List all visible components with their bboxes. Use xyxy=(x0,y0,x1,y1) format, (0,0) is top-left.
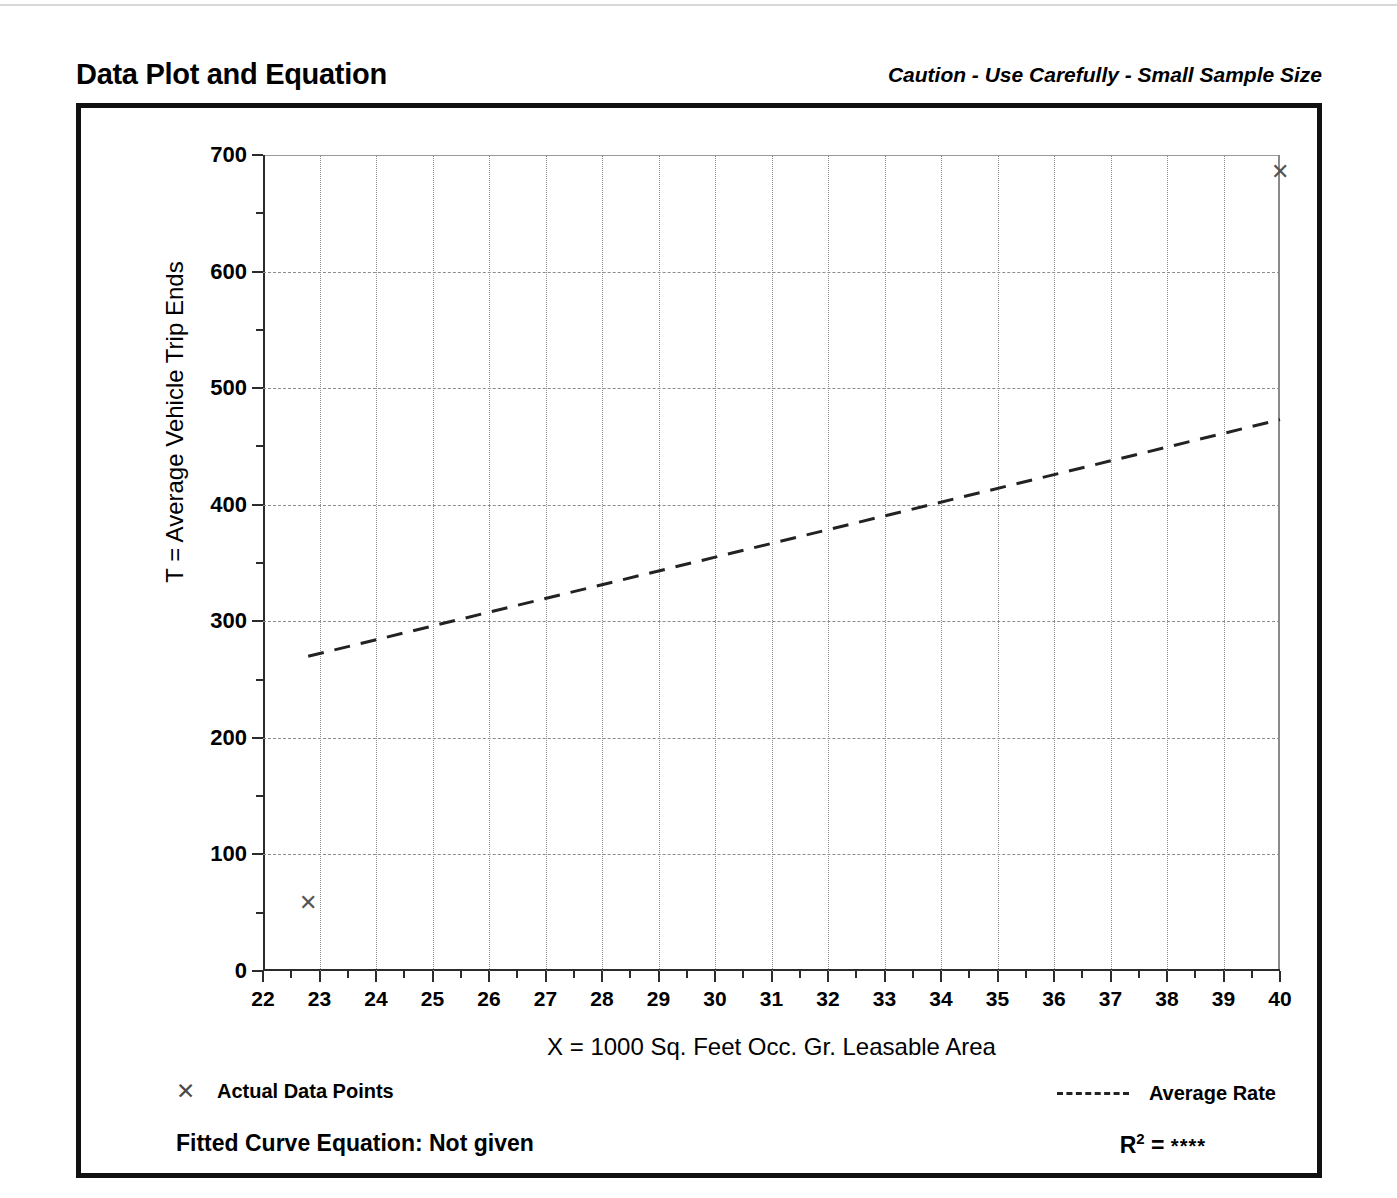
r2-exponent: 2 xyxy=(1136,1130,1144,1147)
x-tick xyxy=(375,971,377,982)
x-tick xyxy=(545,971,547,982)
y-tick-minor xyxy=(256,329,263,331)
x-tick-minor xyxy=(460,971,462,978)
caution-note: Caution - Use Carefully - Small Sample S… xyxy=(888,63,1322,87)
x-tick-minor xyxy=(912,971,914,978)
legend-label-data-points: Actual Data Points xyxy=(217,1080,394,1103)
x-tick-minor xyxy=(516,971,518,978)
x-tick-label: 25 xyxy=(410,987,456,1011)
y-tick-label: 200 xyxy=(177,725,247,751)
x-tick-label: 30 xyxy=(692,987,738,1011)
page-title: Data Plot and Equation xyxy=(76,58,387,91)
data-point-marker: ✕ xyxy=(298,893,318,913)
y-tick xyxy=(252,737,263,739)
x-tick-label: 23 xyxy=(297,987,343,1011)
dashed-line-icon xyxy=(1057,1092,1129,1095)
y-tick-minor xyxy=(256,445,263,447)
x-tick xyxy=(262,971,264,982)
fitted-curve-equation: Fitted Curve Equation: Not given xyxy=(176,1130,534,1157)
x-tick-minor xyxy=(573,971,575,978)
x-tick-minor xyxy=(1138,971,1140,978)
legend-item-average-rate: Average Rate xyxy=(1057,1082,1276,1105)
x-tick-label: 39 xyxy=(1201,987,1247,1011)
x-tick-minor xyxy=(629,971,631,978)
x-marker-icon: ✕ xyxy=(176,1080,195,1103)
x-tick-label: 33 xyxy=(862,987,908,1011)
x-tick xyxy=(997,971,999,982)
x-tick-minor xyxy=(403,971,405,978)
page-top-rule xyxy=(0,4,1397,6)
x-tick-label: 32 xyxy=(805,987,851,1011)
x-tick-label: 28 xyxy=(579,987,625,1011)
x-tick xyxy=(658,971,660,982)
x-tick-label: 36 xyxy=(1031,987,1077,1011)
y-tick-minor xyxy=(256,212,263,214)
chart-legend: ✕ Actual Data Points Average Rate xyxy=(176,1080,1316,1114)
y-tick-minor xyxy=(256,562,263,564)
x-tick xyxy=(1223,971,1225,982)
x-tick-minor xyxy=(799,971,801,978)
x-tick-label: 22 xyxy=(240,987,286,1011)
plot-area: 0100200300400500600700 22232425262728293… xyxy=(263,155,1280,971)
average-rate-line xyxy=(263,155,1280,971)
x-tick xyxy=(771,971,773,982)
x-tick xyxy=(432,971,434,982)
x-tick xyxy=(601,971,603,982)
y-tick-minor xyxy=(256,912,263,914)
y-tick xyxy=(252,154,263,156)
x-tick-label: 37 xyxy=(1088,987,1134,1011)
r2-equals: = xyxy=(1151,1132,1164,1158)
x-tick xyxy=(1166,971,1168,982)
x-tick-label: 35 xyxy=(975,987,1021,1011)
x-tick-minor xyxy=(1251,971,1253,978)
x-tick-minor xyxy=(686,971,688,978)
x-tick-label: 38 xyxy=(1144,987,1190,1011)
x-tick xyxy=(488,971,490,982)
y-tick-label: 0 xyxy=(177,958,247,984)
x-tick-minor xyxy=(1025,971,1027,978)
r2-letter: R xyxy=(1120,1132,1137,1158)
r2-stars: **** xyxy=(1171,1135,1206,1157)
page-header: Data Plot and Equation Caution - Use Car… xyxy=(76,58,1322,96)
x-tick-label: 24 xyxy=(353,987,399,1011)
x-tick-label: 31 xyxy=(749,987,795,1011)
y-tick-minor xyxy=(256,679,263,681)
y-tick xyxy=(252,970,263,972)
y-tick xyxy=(252,387,263,389)
x-tick xyxy=(827,971,829,982)
r-squared-value: R2 = **** xyxy=(1120,1130,1206,1159)
y-tick-label: 100 xyxy=(177,841,247,867)
x-tick-minor xyxy=(855,971,857,978)
x-tick-minor xyxy=(742,971,744,978)
x-tick-label: 40 xyxy=(1257,987,1303,1011)
x-tick xyxy=(1110,971,1112,982)
x-tick-minor xyxy=(290,971,292,978)
y-tick xyxy=(252,271,263,273)
x-tick xyxy=(1053,971,1055,982)
x-tick-minor xyxy=(968,971,970,978)
y-tick-label: 700 xyxy=(177,142,247,168)
x-tick xyxy=(714,971,716,982)
y-tick xyxy=(252,853,263,855)
y-tick xyxy=(252,620,263,622)
x-tick-label: 26 xyxy=(466,987,512,1011)
chart-frame: 0100200300400500600700 22232425262728293… xyxy=(76,103,1322,1178)
x-tick-label: 29 xyxy=(636,987,682,1011)
y-tick xyxy=(252,504,263,506)
y-tick-minor xyxy=(256,795,263,797)
data-point-marker: ✕ xyxy=(1270,162,1290,182)
x-tick-minor xyxy=(1081,971,1083,978)
x-tick-minor xyxy=(347,971,349,978)
x-tick xyxy=(940,971,942,982)
y-axis-title: T = Average Vehicle Trip Ends xyxy=(161,212,189,632)
x-tick-label: 27 xyxy=(523,987,569,1011)
legend-item-data-points: ✕ Actual Data Points xyxy=(176,1080,394,1103)
x-tick xyxy=(1279,971,1281,982)
x-tick-minor xyxy=(1194,971,1196,978)
legend-label-average-rate: Average Rate xyxy=(1149,1082,1276,1105)
x-axis-title: X = 1000 Sq. Feet Occ. Gr. Leasable Area xyxy=(263,1033,1280,1061)
x-tick xyxy=(884,971,886,982)
x-tick-label: 34 xyxy=(918,987,964,1011)
x-tick xyxy=(319,971,321,982)
chart-footer: Fitted Curve Equation: Not given R2 = **… xyxy=(176,1130,1316,1170)
